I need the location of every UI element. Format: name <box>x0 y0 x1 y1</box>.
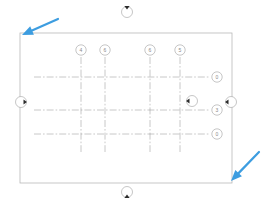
callout-arrow-shaft <box>30 19 58 32</box>
callout-arrows-group <box>22 19 259 181</box>
annotation-layer <box>0 0 270 209</box>
callout-arrow-top-left <box>22 19 58 35</box>
callout-arrow-shaft <box>237 152 259 175</box>
drawing-canvas[interactable]: 4665 030 <box>0 0 270 209</box>
callout-arrow-bottom-right <box>231 152 259 181</box>
